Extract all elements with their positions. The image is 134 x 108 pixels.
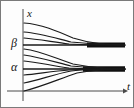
- t-axis-label: t: [127, 81, 130, 92]
- equilibrium-label-beta: β: [11, 37, 17, 49]
- equilibrium-label-alpha: α: [11, 61, 17, 73]
- solution-curves-figure: x t β α: [0, 0, 134, 108]
- solution-curves-group: [24, 23, 125, 91]
- plot-canvas: [1, 1, 134, 108]
- x-axis-label: x: [27, 8, 32, 19]
- equilibrium-lines-group: [23, 45, 125, 69]
- solution-curve: [24, 69, 125, 91]
